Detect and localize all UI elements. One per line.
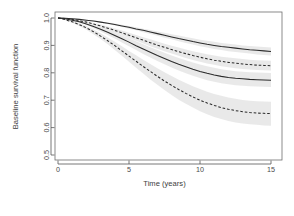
confidence-bands-group <box>58 18 271 126</box>
x-tick-label-1: 5 <box>127 165 131 174</box>
x-axis-title: Time (years) <box>143 179 186 188</box>
y-tick-label-5: 1.0 <box>42 13 51 23</box>
survival-plot: 0.50.60.70.80.91.0051015Time (years)Base… <box>0 0 294 216</box>
chart-container: 0.50.60.70.80.91.0051015Time (years)Base… <box>0 0 294 216</box>
y-tick-label-2: 0.7 <box>42 95 51 105</box>
x-tick-label-2: 10 <box>196 165 204 174</box>
y-tick-label-4: 0.9 <box>42 40 51 50</box>
x-tick-label-3: 15 <box>267 165 275 174</box>
y-axis-title: Baseline survival function <box>11 44 20 130</box>
y-tick-label-0: 0.5 <box>42 150 51 160</box>
y-tick-label-1: 0.6 <box>42 123 51 133</box>
y-tick-label-3: 0.8 <box>42 68 51 78</box>
x-tick-label-0: 0 <box>56 165 60 174</box>
